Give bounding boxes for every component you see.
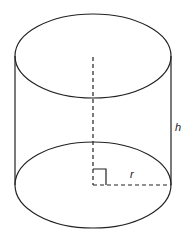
- height-label: h: [175, 121, 181, 133]
- radius-label: r: [130, 168, 135, 180]
- cylinder-diagram: r h: [0, 0, 189, 237]
- right-angle-marker: [93, 169, 106, 185]
